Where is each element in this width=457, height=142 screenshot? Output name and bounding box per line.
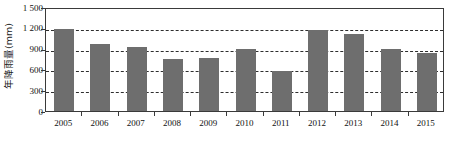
plot-area <box>45 8 444 112</box>
x-axis-tick-mark <box>371 112 372 116</box>
bar <box>90 44 110 111</box>
x-axis-tick-mark <box>81 112 82 116</box>
bar-group <box>46 9 443 111</box>
x-axis-tick-label: 2011 <box>272 118 290 128</box>
x-axis-tick-label: 2014 <box>381 118 399 128</box>
x-axis-tick-label: 2007 <box>127 118 145 128</box>
y-axis-tick-label: 600 <box>14 66 43 75</box>
x-axis-tick-mark <box>154 112 155 116</box>
y-axis-tick-label: 1 200 <box>14 24 43 33</box>
y-axis-title-text: 年降雨量(mm) <box>1 23 15 89</box>
bar <box>381 49 401 111</box>
y-axis-tick-mark <box>41 70 45 71</box>
y-axis-tick-label: 0 <box>14 108 43 117</box>
precipitation-bar-chart: 年降雨量(mm) 03006009001 2001 500 2005200620… <box>0 0 457 142</box>
bar <box>308 30 328 111</box>
x-axis-tick-mark <box>226 112 227 116</box>
bar <box>127 47 147 111</box>
y-axis-tick-mark <box>41 91 45 92</box>
x-axis-tick-mark <box>335 112 336 116</box>
y-axis-tick-mark <box>41 112 45 113</box>
y-axis-tick-mark <box>41 8 45 9</box>
x-axis-tick-mark <box>408 112 409 116</box>
y-axis-tick-label-group: 03006009001 2001 500 <box>14 8 43 112</box>
y-axis-tick-mark <box>41 50 45 51</box>
y-axis-tick-mark <box>41 29 45 30</box>
plot-inner <box>46 9 443 111</box>
x-axis-tick-label: 2012 <box>308 118 326 128</box>
x-axis-tick-label: 2008 <box>163 118 181 128</box>
x-axis-tick-mark <box>263 112 264 116</box>
bar <box>199 58 219 111</box>
y-axis-tick-label: 900 <box>14 45 43 54</box>
bar <box>54 29 74 111</box>
y-axis-tick-label: 300 <box>14 87 43 96</box>
x-axis-tick-label: 2005 <box>54 118 72 128</box>
x-axis-tick-label: 2006 <box>90 118 108 128</box>
bar <box>417 53 437 111</box>
x-axis-tick-label: 2013 <box>344 118 362 128</box>
x-axis-tick-mark <box>190 112 191 116</box>
bar <box>272 71 292 111</box>
x-axis-tick-mark <box>299 112 300 116</box>
x-axis-tick-label: 2009 <box>199 118 217 128</box>
x-axis-tick-label: 2010 <box>236 118 254 128</box>
x-axis-tick-mark <box>118 112 119 116</box>
y-axis-tick-label: 1 500 <box>14 4 43 13</box>
bar <box>344 34 364 111</box>
bar <box>236 49 256 111</box>
bar <box>163 59 183 111</box>
x-axis-tick-label: 2015 <box>417 118 435 128</box>
